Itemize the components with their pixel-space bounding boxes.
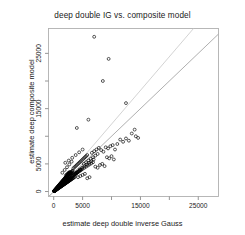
data-point [96,153,99,156]
data-point [68,163,71,166]
data-point [125,137,128,140]
data-point [81,148,84,151]
identity-line [49,34,219,196]
x-tick-label: 15000 [131,202,150,209]
data-point [78,151,81,154]
data-point [130,132,133,135]
x-tick-label: 0 [52,202,56,209]
data-point [119,138,122,141]
data-point [71,156,74,159]
data-point [101,80,104,83]
data-point [66,166,69,169]
data-point [64,161,67,164]
x-tick-label: 5000 [75,202,90,209]
plot-canvas: 050001500025000050001500025000 [0,0,245,235]
y-tick-label: 15000 [35,99,42,118]
data-point [122,140,125,143]
data-point [93,35,96,38]
data-point [67,159,70,162]
data-point [133,128,136,131]
data-point [75,127,78,130]
data-point [70,160,73,163]
data-point [87,118,90,121]
data-point [112,158,115,161]
scatter-plot-figure: deep double IG vs. composite model 05000… [0,0,245,235]
data-point [114,148,117,151]
y-axis-label: estimate deep composite model [27,32,36,192]
reference-lines-layer [49,0,219,198]
data-point [102,150,105,153]
y-tick-label: 0 [35,189,42,193]
data-point [103,165,106,168]
fit-line [49,0,219,198]
y-tick-label: 25000 [35,44,42,63]
data-point [137,136,140,139]
data-point [107,57,110,60]
data-point [116,143,119,146]
x-axis-label: estimate deep double inverse Gauss [0,219,245,228]
x-tick-label: 25000 [189,202,208,209]
data-point [63,169,66,172]
data-point [74,154,77,157]
data-point [125,102,128,105]
data-points-layer [53,35,140,192]
data-point [61,171,64,174]
data-point [127,139,130,142]
data-point [110,155,113,158]
scatter-points [53,35,140,192]
y-tick-label: 5000 [35,156,42,171]
